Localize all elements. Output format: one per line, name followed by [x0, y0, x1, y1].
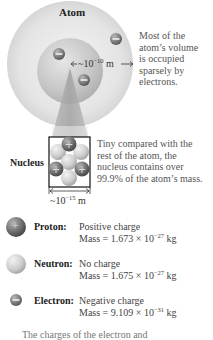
electron-icon: [53, 48, 65, 60]
nucleus-mass-note: Tiny compared with the rest of the atom,…: [97, 138, 213, 184]
svg-text:+: +: [52, 164, 60, 175]
proton-icon: +: [62, 137, 77, 152]
legend-proton: Proton: Positive charge Mass = 1.673 × 1…: [0, 221, 213, 251]
nucleus-label: Nucleus: [10, 157, 44, 168]
footer-text: The charges of the electron and: [22, 329, 148, 340]
proton-icon: +: [49, 162, 64, 177]
svg-text:+: +: [65, 139, 73, 150]
nucleus-size-label: ~10−15 m: [50, 195, 86, 207]
electron-icon: [110, 33, 122, 45]
atom-title: Atom: [59, 6, 85, 18]
svg-text:+: +: [78, 164, 86, 175]
atom-size-label: ~10−10 m: [78, 58, 114, 70]
legend-neutron: Neutron: No charge Mass = 1.675 × 10−27 …: [0, 258, 213, 288]
electron-icon: [78, 74, 90, 86]
atom-volume-note: Most of the atom’s volume is occupied sp…: [139, 30, 213, 88]
proton-icon: +: [75, 162, 90, 177]
legend-electron: Electron: Negative charge Mass = 9.109 ×…: [0, 295, 213, 325]
